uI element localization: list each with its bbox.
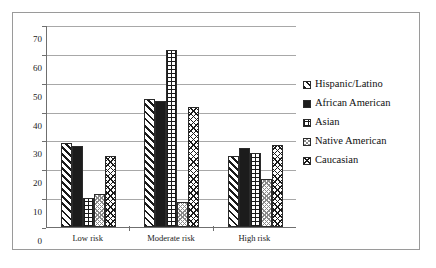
y-axis-tick-label: 20 (33, 179, 42, 188)
y-axis-tick-labels: 010203040506070 (26, 26, 42, 228)
y-axis-tick-mark (42, 170, 46, 171)
x-axis-tick-label: Moderate risk (147, 233, 194, 243)
bar-group (214, 26, 297, 227)
x-axis-tick-label: Low risk (72, 233, 102, 243)
y-axis-tick-label: 30 (33, 150, 42, 159)
bar (61, 143, 72, 227)
legend-swatch-icon (303, 81, 311, 89)
legend-swatch-icon (303, 138, 311, 146)
y-axis-tick-mark (42, 113, 46, 114)
bar (72, 146, 83, 227)
bar (177, 202, 188, 227)
bar (105, 156, 116, 227)
y-axis-tick-mark (42, 84, 46, 85)
x-axis-tick-mark (129, 226, 130, 231)
bar (94, 194, 105, 227)
y-axis-tick-label: 60 (33, 63, 42, 72)
y-axis-tick-label: 0 (38, 237, 43, 246)
y-axis-tick-mark (42, 199, 46, 200)
x-axis-tick-mark (213, 226, 214, 231)
chart-figure: 010203040506070 Low riskModerate riskHig… (12, 12, 420, 250)
y-axis-tick-mark (42, 26, 46, 27)
legend-item[interactable]: Asian (303, 113, 415, 132)
bar-group (130, 26, 213, 227)
legend-item-label: Caucasian (315, 155, 358, 166)
x-axis-tick-labels: Low riskModerate riskHigh risk (46, 231, 296, 247)
y-axis-tick-label: 10 (33, 208, 42, 217)
bar (250, 153, 261, 227)
legend-item[interactable]: Caucasian (303, 151, 415, 170)
bar-group (47, 26, 130, 227)
legend-item[interactable]: Native American (303, 132, 415, 151)
bar (144, 99, 155, 227)
legend-swatch-icon (303, 100, 311, 108)
y-axis-tick-label: 70 (33, 35, 42, 44)
bar (261, 179, 272, 227)
legend-swatch-icon (303, 157, 311, 165)
legend-item[interactable]: African American (303, 94, 415, 113)
legend-item[interactable]: Hispanic/Latino (303, 75, 415, 94)
legend-item-label: Hispanic/Latino (315, 79, 383, 90)
bar (83, 198, 94, 227)
y-axis-tick-mark (42, 55, 46, 56)
y-axis-tick-mark (42, 141, 46, 142)
plot-area (46, 26, 296, 228)
bar (188, 107, 199, 227)
legend-item-label: African American (315, 98, 391, 109)
bar (155, 101, 166, 227)
bar (239, 148, 250, 227)
bar (272, 145, 283, 227)
y-axis-tick-label: 50 (33, 92, 42, 101)
legend-swatch-icon (303, 119, 311, 127)
bar (228, 156, 239, 227)
y-axis-tick-label: 40 (33, 121, 42, 130)
chart-legend: Hispanic/LatinoAfrican AmericanAsianNati… (303, 75, 415, 170)
legend-item-label: Native American (315, 136, 386, 147)
legend-item-label: Asian (315, 117, 340, 128)
bar (166, 50, 177, 227)
y-axis-tick-mark (42, 228, 46, 229)
x-axis-tick-label: High risk (238, 233, 270, 243)
